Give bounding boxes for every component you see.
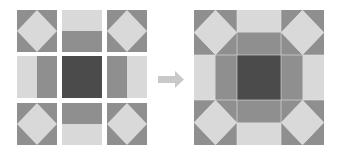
assembled-quilt-block xyxy=(194,10,324,145)
diamond-block-top-left xyxy=(17,10,57,52)
strip-block-bottom-center xyxy=(62,103,102,145)
diamond-block-top-right xyxy=(107,10,147,52)
strip-block-middle-right xyxy=(107,56,147,98)
diamond-block-bottom-left xyxy=(17,103,57,145)
diamond-block-bottom-right xyxy=(107,103,147,145)
dark-center-block xyxy=(62,56,102,98)
strip-block-top-center xyxy=(62,10,102,52)
arrow-right-icon xyxy=(158,71,184,88)
strip-block-middle-left xyxy=(17,56,57,98)
